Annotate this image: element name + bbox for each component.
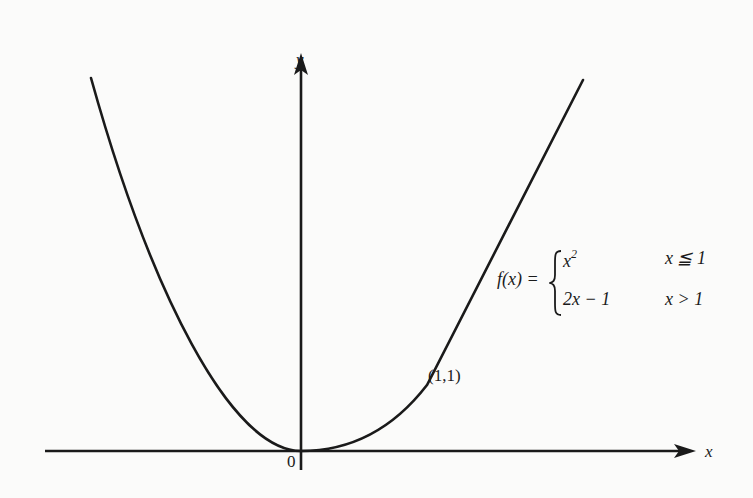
function-lhs: f(x) =	[497, 269, 539, 290]
case-1-expression: x2	[563, 247, 577, 272]
y-axis	[294, 53, 308, 470]
case-2-expression: 2x − 1	[563, 289, 610, 310]
point-label: (1,1)	[428, 366, 461, 386]
x-axis-label: x	[705, 442, 713, 462]
case-1-condition: x ≦ 1	[665, 247, 706, 269]
y-axis-label: y	[296, 50, 304, 70]
function-definition: f(x) = x2 x ≦ 1 2x − 1 x > 1	[497, 247, 737, 317]
origin-label: 0	[287, 452, 296, 472]
x-axis	[45, 444, 696, 458]
case-1-exponent: 2	[571, 247, 577, 261]
left-brace-icon	[549, 249, 563, 317]
case-2-condition: x > 1	[665, 289, 703, 310]
